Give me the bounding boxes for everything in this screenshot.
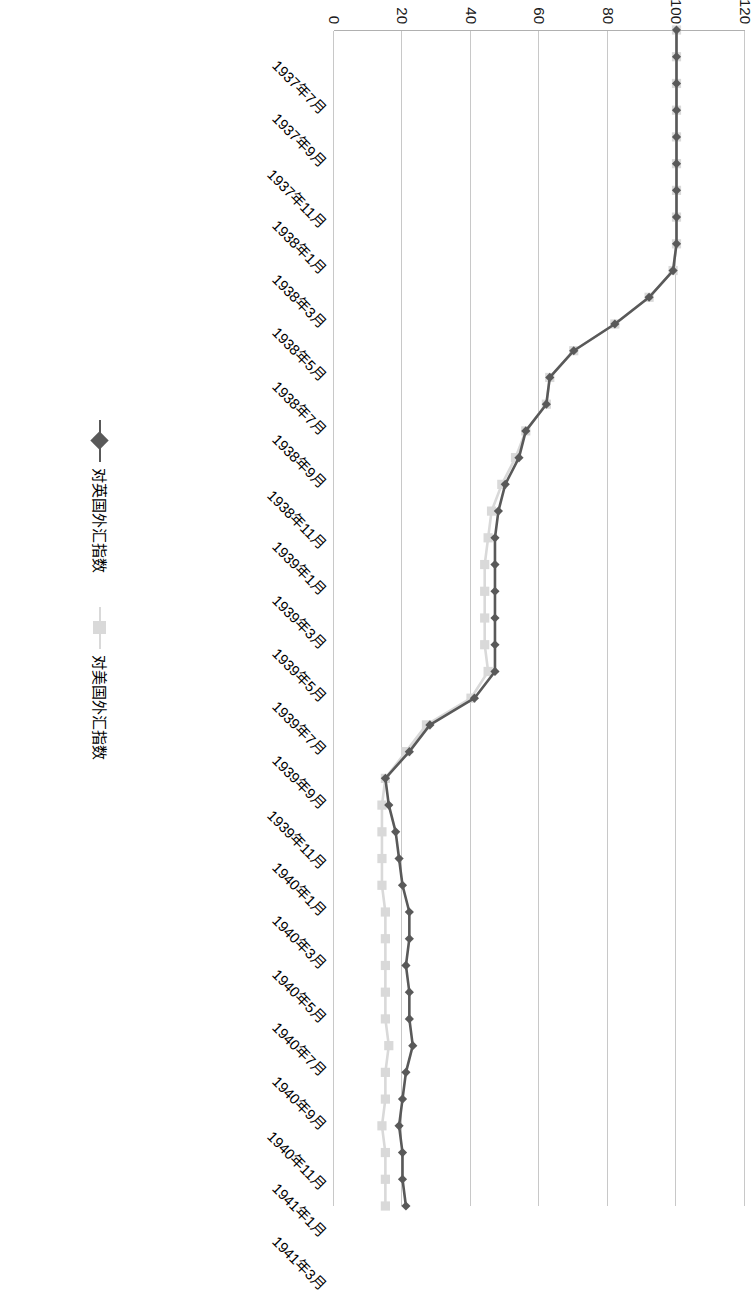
- data-point: [384, 1041, 393, 1050]
- x-tick-label: 1939年7月: [269, 699, 328, 758]
- y-tick-label-100: 100: [669, 0, 684, 24]
- series-line: [385, 30, 676, 1206]
- series-us: [377, 25, 681, 1210]
- legend-marker: [94, 621, 107, 634]
- data-point: [401, 1068, 410, 1077]
- data-point: [377, 827, 386, 836]
- legend-label: 对英国外汇指数: [90, 468, 111, 573]
- x-tick-label: 1940年9月: [269, 1074, 328, 1133]
- series-line: [382, 30, 677, 1206]
- data-point: [490, 613, 499, 622]
- x-tick-label: 1938年5月: [269, 325, 328, 384]
- data-point: [398, 1175, 407, 1184]
- y-tick-label-80: 80: [601, 7, 616, 24]
- x-tick-label: 1938年9月: [269, 432, 328, 491]
- data-point: [381, 1094, 390, 1103]
- x-tick-label: 1938年3月: [269, 272, 328, 331]
- x-tick-label: 1938年11月: [264, 488, 328, 552]
- x-tick-label: 1940年3月: [269, 913, 328, 972]
- square-marker-icon: [94, 607, 108, 649]
- data-point: [394, 1121, 403, 1130]
- y-tick-label-60: 60: [532, 7, 547, 24]
- data-point: [408, 1041, 417, 1050]
- data-point: [381, 934, 390, 943]
- x-tick-label: 1941年3月: [269, 1234, 328, 1293]
- y-tick-label-40: 40: [464, 7, 479, 24]
- data-point: [398, 1094, 407, 1103]
- y-tick-label-20: 20: [395, 7, 410, 24]
- data-point: [381, 1068, 390, 1077]
- legend-item-uk[interactable]: 对英国外汇指数: [90, 420, 111, 573]
- data-point: [381, 988, 390, 997]
- data-point: [405, 934, 414, 943]
- data-point: [490, 560, 499, 569]
- chart-series-layer: [334, 30, 745, 1206]
- data-point: [401, 961, 410, 970]
- data-point: [394, 854, 403, 863]
- data-point: [381, 1201, 390, 1210]
- x-tick-label: 1940年11月: [264, 1129, 328, 1193]
- data-point: [398, 1148, 407, 1157]
- x-tick-label: 1939年5月: [269, 646, 328, 705]
- y-tick-label-0: 0: [327, 16, 342, 24]
- data-point: [490, 640, 499, 649]
- x-tick-label: 1937年9月: [269, 111, 328, 170]
- x-tick-label: 1937年7月: [269, 58, 328, 117]
- data-point: [381, 1175, 390, 1184]
- x-tick-label: 1939年9月: [269, 753, 328, 812]
- data-point: [480, 560, 489, 569]
- data-point: [377, 1121, 386, 1130]
- legend-label: 对美国外汇指数: [90, 655, 111, 760]
- chart-legend: 对英国外汇指数对美国外汇指数: [90, 420, 111, 760]
- series-uk: [381, 25, 681, 1210]
- data-point: [401, 1201, 410, 1210]
- data-point: [490, 587, 499, 596]
- x-tick-label: 1939年3月: [269, 593, 328, 652]
- x-tick-label: 1940年7月: [269, 1020, 328, 1079]
- y-tick-label-120: 120: [738, 0, 751, 24]
- data-point: [391, 827, 400, 836]
- data-point: [480, 613, 489, 622]
- data-point: [405, 988, 414, 997]
- data-point: [377, 881, 386, 890]
- data-point: [381, 961, 390, 970]
- x-tick-label: 1937年11月: [264, 167, 328, 231]
- diamond-marker-icon: [94, 420, 108, 462]
- data-point: [405, 1014, 414, 1023]
- data-point: [381, 1014, 390, 1023]
- x-tick-label: 1940年5月: [269, 967, 328, 1026]
- data-point: [377, 854, 386, 863]
- data-point: [480, 640, 489, 649]
- x-axis-labels: 1937年7月1937年9月1937年11月1938年1月1938年3月1938…: [154, 30, 334, 1206]
- data-point: [381, 907, 390, 916]
- x-tick-label: 1938年7月: [269, 379, 328, 438]
- x-tick-label: 1939年11月: [264, 808, 328, 872]
- data-point: [398, 881, 407, 890]
- legend-marker: [91, 431, 109, 449]
- data-point: [381, 1148, 390, 1157]
- data-point: [480, 587, 489, 596]
- data-point: [405, 907, 414, 916]
- legend-item-us[interactable]: 对美国外汇指数: [90, 607, 111, 760]
